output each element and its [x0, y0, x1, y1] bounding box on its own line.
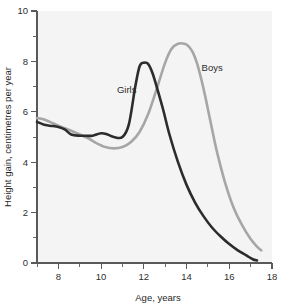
y-axis-minor-ticks	[33, 36, 37, 238]
x-axis-title: Age, years	[135, 292, 181, 303]
girls-series-label: Girls	[117, 84, 137, 95]
y-tick-label: 6	[23, 106, 28, 117]
y-axis-tick-labels: 0246810	[17, 5, 28, 268]
x-tick-label: 10	[96, 271, 107, 282]
x-axis-tick-labels: 81012141618	[56, 271, 278, 282]
x-tick-label: 14	[181, 271, 192, 282]
x-tick-label: 12	[139, 271, 150, 282]
plot-area-background	[37, 11, 272, 263]
x-tick-label: 18	[267, 271, 278, 282]
chart-svg: 0246810 81012141618 Girls Boys Age, year…	[0, 0, 302, 307]
y-tick-label: 4	[23, 157, 28, 168]
x-tick-label: 16	[224, 271, 235, 282]
y-tick-label: 10	[17, 5, 28, 16]
y-tick-label: 2	[23, 207, 28, 218]
x-tick-label: 8	[56, 271, 61, 282]
boys-series-label: Boys	[202, 62, 223, 73]
y-tick-label: 0	[23, 257, 28, 268]
y-axis-title: Height gain, centimetres per year	[2, 67, 13, 207]
growth-velocity-chart: 0246810 81012141618 Girls Boys Age, year…	[0, 0, 302, 307]
y-tick-label: 8	[23, 56, 28, 67]
